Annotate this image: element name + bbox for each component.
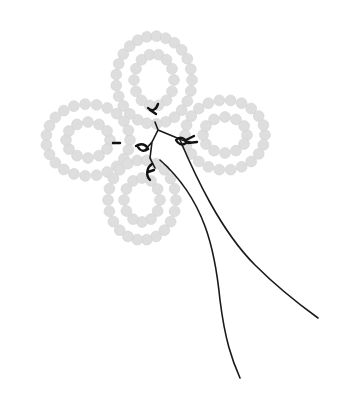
bead — [152, 184, 163, 195]
bead — [80, 99, 91, 110]
bead — [111, 80, 122, 91]
bead — [246, 156, 257, 167]
twist-left — [136, 144, 148, 150]
bead — [236, 98, 247, 109]
bead — [169, 75, 180, 86]
bead — [151, 31, 162, 42]
bead — [111, 69, 122, 80]
bead — [94, 150, 105, 161]
bead — [121, 206, 132, 217]
bead — [258, 120, 269, 131]
bead — [119, 195, 130, 206]
bead — [102, 126, 113, 137]
beaded-flower-illustration — [0, 0, 357, 408]
petal-right — [180, 95, 271, 175]
bead — [69, 101, 80, 112]
bead — [103, 195, 114, 206]
bead — [83, 153, 94, 164]
bead — [123, 125, 134, 136]
bead — [132, 155, 143, 166]
bead — [129, 75, 140, 86]
bead — [236, 161, 247, 172]
bead — [155, 195, 166, 206]
bead — [169, 183, 180, 194]
bead — [187, 75, 198, 86]
bead — [91, 99, 102, 110]
bead — [193, 103, 204, 114]
bead — [142, 31, 153, 42]
petals — [41, 31, 270, 245]
bead — [41, 140, 52, 151]
bead — [171, 195, 182, 206]
bead — [225, 95, 236, 106]
bead — [231, 145, 242, 156]
bead — [220, 112, 231, 123]
bead — [214, 95, 225, 106]
bead — [104, 183, 115, 194]
bead — [203, 98, 214, 109]
bead — [169, 206, 180, 217]
bead — [91, 170, 102, 181]
bead — [72, 119, 83, 130]
bead — [80, 171, 91, 182]
bead — [69, 169, 80, 180]
bead — [83, 117, 94, 128]
bead — [160, 116, 171, 127]
bead — [125, 135, 136, 146]
bead — [113, 58, 124, 69]
bead — [225, 164, 236, 175]
bead — [131, 86, 142, 97]
bead — [203, 161, 214, 172]
bead — [185, 64, 196, 75]
bead — [182, 53, 193, 64]
bead — [260, 130, 271, 141]
bead — [239, 121, 250, 132]
petal-top — [111, 31, 198, 130]
bead — [214, 164, 225, 175]
bead — [102, 103, 113, 114]
bead — [141, 234, 152, 245]
bead — [185, 86, 196, 97]
bead — [209, 114, 220, 125]
bead — [113, 91, 124, 102]
bead — [167, 63, 178, 74]
bead — [58, 105, 69, 116]
bead — [104, 206, 115, 217]
bead — [220, 148, 231, 159]
bead — [108, 216, 119, 227]
